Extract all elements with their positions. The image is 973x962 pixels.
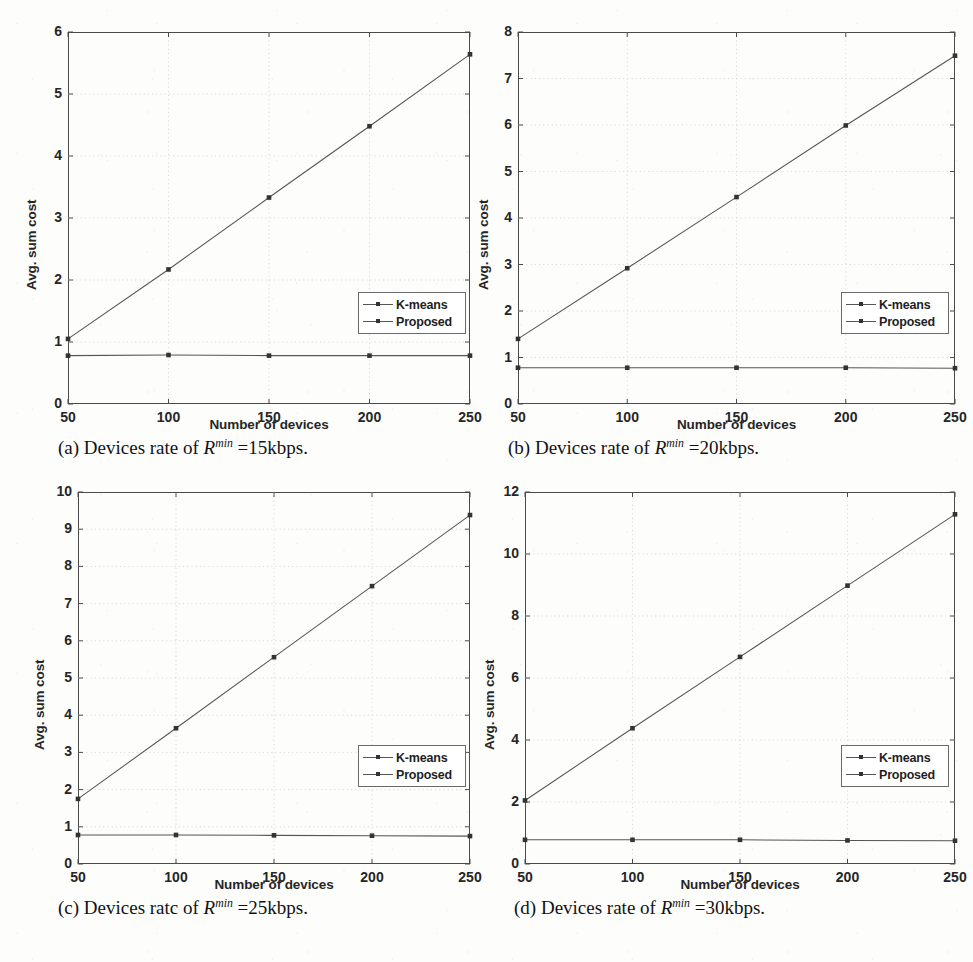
square-marker-icon [363, 299, 393, 311]
data-point-marker [845, 583, 850, 588]
x-tick-label: 150 [710, 869, 770, 885]
data-point-marker [272, 833, 277, 838]
caption-c: (c) Devices ratc of Rmin =25kbps. [58, 897, 308, 919]
y-tick-label: 2 [12, 271, 62, 287]
caption-symbol-d: R [661, 897, 673, 918]
caption-symbol-a: R [204, 437, 216, 458]
y-tick-label: 4 [469, 731, 519, 747]
data-point-marker [468, 834, 473, 839]
y-tick-label: 5 [22, 669, 72, 685]
legend-label-proposed: Proposed [879, 315, 935, 329]
x-tick-label: 50 [488, 409, 548, 425]
caption-prefix-a: Devices rate of [84, 437, 199, 458]
data-point-marker [953, 366, 958, 371]
x-tick-label: 200 [342, 869, 402, 885]
x-tick-label: 100 [603, 869, 663, 885]
legend-a: K-means Proposed [358, 292, 466, 334]
data-point-marker [738, 838, 743, 843]
legend-item-kmeans: K-means [846, 749, 943, 766]
x-tick-label: 200 [340, 409, 400, 425]
legend-label-kmeans: K-means [879, 298, 930, 312]
data-point-marker [523, 798, 528, 803]
square-marker-icon [846, 299, 876, 311]
data-point-marker [734, 365, 739, 370]
data-point-marker [630, 726, 635, 731]
data-point-marker [953, 512, 958, 517]
y-tick-label: 12 [469, 483, 519, 499]
y-tick-label: 6 [462, 116, 512, 132]
caption-b: (b) Devices rate of Rmin =20kbps. [508, 437, 759, 459]
data-point-marker [953, 838, 958, 843]
y-tick-label: 8 [22, 557, 72, 573]
y-tick-label: 7 [22, 595, 72, 611]
data-point-marker [367, 124, 372, 129]
y-tick-label: 2 [462, 302, 512, 318]
legend-label-proposed: Proposed [396, 315, 452, 329]
data-point-marker [843, 365, 848, 370]
legend-label-kmeans: K-means [879, 751, 930, 765]
figure-page: Avg. sum cost Number of devices K-means … [0, 0, 973, 962]
caption-a: (a) Devices rate of Rmin =15kbps. [58, 437, 308, 459]
y-tick-label: 8 [469, 607, 519, 623]
y-tick-label: 10 [22, 483, 72, 499]
y-tick-label: 2 [22, 781, 72, 797]
square-marker-icon [363, 752, 393, 764]
caption-index-d: (d) [514, 897, 536, 918]
y-tick-label: 8 [462, 23, 512, 39]
caption-prefix-b: Devices rate of [535, 437, 650, 458]
x-tick-label: 100 [146, 869, 206, 885]
x-tick-label: 50 [48, 869, 108, 885]
y-tick-label: 4 [462, 209, 512, 225]
x-tick-label: 150 [239, 409, 299, 425]
data-point-marker [272, 655, 277, 660]
data-point-marker [267, 353, 272, 358]
legend-label-kmeans: K-means [396, 751, 447, 765]
square-marker-icon [846, 316, 876, 328]
legend-item-kmeans: K-means [846, 296, 943, 313]
caption-value-a: =15kbps. [238, 437, 308, 458]
data-point-marker [370, 584, 375, 589]
data-point-marker [76, 797, 81, 802]
x-tick-label: 50 [38, 409, 98, 425]
legend-b: K-means Proposed [841, 292, 949, 334]
data-point-marker [630, 838, 635, 843]
x-tick-label: 200 [816, 409, 876, 425]
y-tick-label: 4 [12, 147, 62, 163]
square-marker-icon [846, 769, 876, 781]
y-tick-label: 10 [469, 545, 519, 561]
caption-symbol-b: R [655, 437, 667, 458]
subplot-b: Avg. sum cost Number of devices K-means … [486, 0, 973, 481]
x-tick-label: 200 [818, 869, 878, 885]
x-tick-label: 150 [244, 869, 304, 885]
data-point-marker [734, 195, 739, 200]
legend-c: K-means Proposed [358, 745, 466, 787]
caption-value-b: =20kbps. [689, 437, 759, 458]
legend-item-kmeans: K-means [363, 296, 460, 313]
caption-prefix-d: Devices rate of [541, 897, 656, 918]
data-point-marker [845, 838, 850, 843]
caption-value-d: =30kbps. [695, 897, 765, 918]
subplot-a: Avg. sum cost Number of devices K-means … [0, 0, 486, 481]
data-point-marker [516, 365, 521, 370]
data-point-marker [370, 833, 375, 838]
y-tick-label: 5 [462, 163, 512, 179]
caption-value-c: =25kbps. [238, 897, 308, 918]
caption-exponent-a: min [215, 437, 233, 450]
x-tick-label: 250 [925, 869, 973, 885]
caption-index-c: (c) [58, 897, 79, 918]
y-tick-label: 7 [462, 70, 512, 86]
y-tick-label: 3 [12, 209, 62, 225]
legend-item-proposed: Proposed [363, 313, 460, 330]
data-point-marker [76, 833, 81, 838]
y-tick-label: 1 [462, 349, 512, 365]
data-point-marker [166, 353, 171, 358]
data-point-marker [66, 353, 71, 358]
data-point-marker [625, 266, 630, 271]
square-marker-icon [846, 752, 876, 764]
legend-label-proposed: Proposed [879, 768, 935, 782]
subplot-d: Avg. sum cost Number of devices K-means … [486, 460, 973, 962]
data-point-marker [174, 833, 179, 838]
data-point-marker [468, 513, 473, 518]
y-tick-label: 1 [12, 333, 62, 349]
x-tick-label: 100 [139, 409, 199, 425]
